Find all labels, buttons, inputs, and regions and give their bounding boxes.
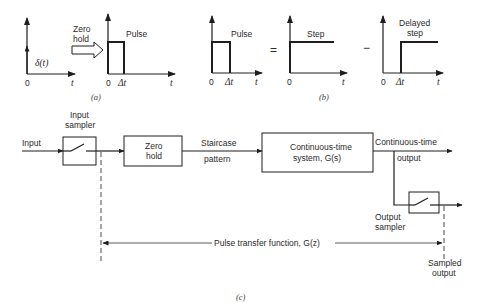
caption-b: (b) [319, 92, 329, 102]
zero-hold-arrow-icon [72, 42, 103, 58]
step-origin-label: 0 [287, 77, 292, 87]
input-sampler-label-line1: Input [70, 110, 90, 120]
zero-hold-arrow-label-line2: hold [73, 34, 89, 44]
delayed-step-title-line2: step [407, 28, 423, 38]
output-sampler-label-line2: sampler [375, 222, 405, 232]
staircase-label-line1: Staircase [201, 138, 237, 148]
ct-output-label-line1: Continuous-time [375, 137, 437, 147]
impulse-plot: δ(t) 0 t [25, 18, 75, 88]
pulse-a-origin-label: 0 [106, 78, 111, 88]
output-sampler-label-line1: Output [375, 212, 401, 222]
system-label-line1: Continuous-time [290, 142, 352, 152]
step-shape [290, 42, 334, 73]
step-plot: Step 0 t [287, 16, 347, 87]
caption-c: (c) [236, 292, 246, 302]
delayed-step-t-label: t [437, 77, 440, 87]
impulse-label: δ(t) [35, 58, 48, 69]
zero-hold-label-line1: Zero [145, 141, 163, 151]
output-sampler-box [409, 192, 439, 213]
input-label: Input [22, 138, 42, 148]
delayed-step-title-line1: Delayed [399, 18, 430, 28]
delayed-step-plot: Delayed step 0 Δt t [381, 16, 443, 87]
pulse-b-title: Pulse [231, 29, 253, 39]
delayed-step-shape [401, 42, 438, 73]
panel-a: δ(t) 0 t Zero hold Pulse 0 Δt t (a) [25, 14, 175, 102]
input-sampler: Input sampler [63, 110, 96, 165]
pulse-a-delta-label: Δt [117, 78, 127, 88]
pulse-transfer-function-label: Pulse transfer function, G(z) [214, 238, 320, 248]
sampled-output-label-line2: output [432, 268, 456, 278]
minus-sign: − [363, 41, 370, 55]
pulse-b-delta-label: Δt [224, 77, 234, 87]
delayed-step-delta-label: Δt [395, 77, 405, 87]
pulse-b-shape [212, 42, 230, 73]
zero-hold-label-line2: hold [146, 151, 162, 161]
pulse-plot-b: Pulse 0 Δt t [209, 16, 262, 87]
step-title: Step [307, 29, 325, 39]
pulse-b-t-label: t [255, 77, 258, 87]
sampled-data-diagram: δ(t) 0 t Zero hold Pulse 0 Δt t (a) Pul [0, 0, 485, 302]
pulse-a-t-label: t [170, 78, 173, 88]
caption-a: (a) [91, 92, 101, 102]
panel-c: Input Input sampler Zero hold Staircase … [22, 110, 462, 302]
input-sampler-label-line2: sampler [65, 120, 95, 130]
system-label-line2: system, G(s) [293, 153, 341, 163]
panel-b: Pulse 0 Δt t = Step 0 t − Delayed step 0… [209, 16, 443, 102]
impulse-origin-label: 0 [25, 78, 30, 88]
zero-hold-arrow-label-line1: Zero [73, 24, 91, 34]
step-t-label: t [342, 77, 345, 87]
output-sampler: Output sampler [375, 192, 462, 232]
equals-sign: = [270, 43, 277, 57]
continuous-system-block: Continuous-time system, G(s) [262, 133, 373, 172]
zero-hold-block: Zero hold [124, 136, 182, 166]
impulse-t-label: t [71, 78, 74, 88]
ct-output-label-line2: output [397, 153, 421, 163]
pulse-a-shape [108, 42, 124, 74]
sampled-output-label-line1: Sampled [428, 258, 462, 268]
pulse-plot-a: Pulse 0 Δt t [106, 14, 175, 88]
pulse-a-title: Pulse [126, 29, 148, 39]
pulse-b-origin-label: 0 [209, 77, 214, 87]
staircase-label-line2: pattern [204, 154, 231, 164]
delayed-step-origin-label: 0 [381, 77, 386, 87]
